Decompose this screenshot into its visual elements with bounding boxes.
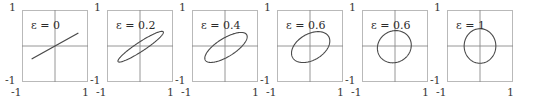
epsilon-label: ε = 0.6: [371, 20, 410, 32]
epsilon-label: ε = 0: [31, 20, 60, 32]
panel-4: 1-1-11ε = 0.6: [340, 0, 429, 103]
y-axis-min-tick: -1: [90, 75, 100, 86]
epsilon-label: ε = 0.4: [201, 20, 240, 32]
y-axis-max-tick: 1: [349, 2, 356, 13]
curve-ellipse: [118, 31, 163, 62]
panel-0: 1-1-11ε = 0: [0, 0, 89, 103]
x-axis-min-tick: -1: [181, 87, 191, 98]
x-axis-max-tick: 1: [507, 87, 514, 98]
y-axis-min-tick: -1: [5, 75, 15, 86]
x-axis-min-tick: -1: [351, 87, 361, 98]
y-axis-max-tick: 1: [94, 2, 101, 13]
y-axis-max-tick: 1: [264, 2, 271, 13]
y-axis-min-tick: -1: [345, 75, 355, 86]
x-axis-min-tick: -1: [11, 87, 21, 98]
curve-ellipse: [205, 32, 247, 62]
y-axis-max-tick: 1: [179, 2, 186, 13]
y-axis-min-tick: -1: [175, 75, 185, 86]
x-axis-min-tick: -1: [436, 87, 446, 98]
curve-ellipse: [292, 32, 330, 63]
panel-2: 1-1-11ε = 0.4: [170, 0, 259, 103]
epsilon-label: ε = 0.2: [116, 20, 155, 32]
y-axis-min-tick: -1: [260, 75, 270, 86]
y-axis-max-tick: 1: [9, 2, 16, 13]
ellipse-panel-figure: 1-1-11ε = 01-1-11ε = 0.21-1-11ε = 0.41-1…: [0, 0, 534, 103]
epsilon-label: ε = 1: [456, 20, 485, 32]
panel-5: 1-1-11ε = 1: [425, 0, 514, 103]
panel-3: 1-1-11ε = 0.6: [255, 0, 344, 103]
y-axis-max-tick: 1: [434, 2, 441, 13]
epsilon-label: ε = 0.6: [286, 20, 325, 32]
x-axis-min-tick: -1: [266, 87, 276, 98]
panel-1: 1-1-11ε = 0.2: [85, 0, 174, 103]
curve-ellipse: [377, 31, 411, 63]
x-axis-min-tick: -1: [96, 87, 106, 98]
y-axis-min-tick: -1: [430, 75, 440, 86]
